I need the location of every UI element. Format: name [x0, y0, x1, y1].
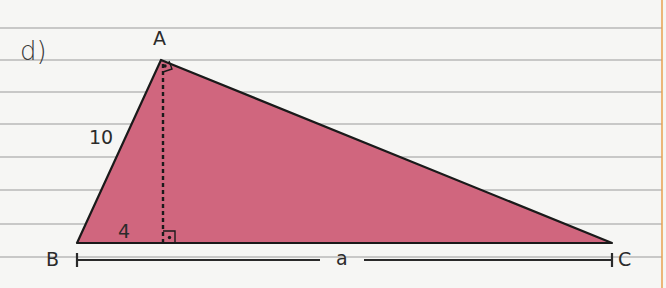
vertex-label-c: C: [618, 250, 631, 269]
diagram-canvas: d) A B C 10 4 a: [0, 0, 666, 288]
side-ab-length: 10: [89, 128, 113, 147]
triangle-abc: [77, 60, 612, 243]
side-bc-label: a: [336, 249, 348, 268]
exercise-label: d): [20, 38, 47, 64]
vertex-label-a: A: [153, 29, 166, 48]
segment-b-foot-length: 4: [118, 222, 130, 241]
vertex-label-b: B: [46, 250, 59, 269]
